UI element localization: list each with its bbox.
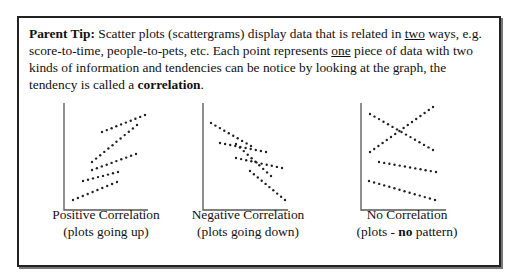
data-point <box>398 189 400 191</box>
data-point <box>415 118 417 120</box>
data-point <box>388 163 390 165</box>
data-point <box>418 141 420 143</box>
data-point <box>91 161 93 163</box>
data-point <box>391 126 393 128</box>
data-point <box>115 160 117 162</box>
data-point <box>245 159 247 161</box>
data-point <box>110 162 112 164</box>
data-point <box>373 181 375 183</box>
data-point <box>82 195 84 197</box>
data-point <box>272 189 274 191</box>
data-point <box>224 143 226 145</box>
data-point <box>261 180 263 182</box>
data-point <box>235 157 237 159</box>
data-point <box>266 164 268 166</box>
data-point <box>378 118 380 120</box>
data-point <box>223 130 225 132</box>
data-point <box>378 161 380 163</box>
data-point <box>101 165 103 167</box>
data-point <box>106 164 108 166</box>
data-point <box>245 142 247 144</box>
data-point <box>373 115 375 117</box>
data-point <box>386 139 388 141</box>
data-point <box>258 164 260 166</box>
data-point <box>404 165 406 167</box>
data-point <box>115 141 117 143</box>
data-point <box>419 115 421 117</box>
data-point <box>268 186 270 188</box>
data-point <box>115 125 117 127</box>
data-point <box>266 171 268 173</box>
data-point <box>91 191 93 193</box>
data-point <box>400 131 402 133</box>
data-point <box>276 166 278 168</box>
data-point <box>110 127 112 129</box>
data-point <box>102 175 104 177</box>
data-point <box>136 124 138 126</box>
data-point <box>117 171 119 173</box>
data-point <box>262 168 264 170</box>
data-point <box>427 146 429 148</box>
data-point <box>228 132 230 134</box>
data-point <box>82 180 84 182</box>
data-point <box>116 181 118 183</box>
data-point <box>423 144 425 146</box>
data-point <box>264 183 266 185</box>
data-point <box>280 196 282 198</box>
data-point <box>107 147 109 149</box>
data-point <box>409 166 411 168</box>
data-point <box>95 157 97 159</box>
data-point <box>382 121 384 123</box>
data-point <box>237 137 239 139</box>
data-point <box>394 133 396 135</box>
data-point <box>250 145 252 147</box>
data-point <box>411 121 413 123</box>
data-point <box>419 168 421 170</box>
data-point <box>369 151 371 153</box>
caption-no-correlation: No Correlation (plots - no pattern) <box>337 206 477 240</box>
data-point <box>368 180 370 182</box>
data-point <box>396 128 398 130</box>
data-point <box>276 192 278 194</box>
data-point <box>92 177 94 179</box>
axes <box>203 103 288 210</box>
data-point <box>424 169 426 171</box>
data-point <box>435 171 437 173</box>
data-point <box>260 150 262 152</box>
data-point <box>405 133 407 135</box>
caption-positive: Positive Correlation (plots going up) <box>36 206 176 240</box>
data-point <box>270 175 272 177</box>
data-point <box>96 167 98 169</box>
data-point <box>87 193 89 195</box>
data-point <box>265 151 267 153</box>
data-point <box>390 136 392 138</box>
data-point <box>250 160 252 162</box>
plot-no-correlation <box>361 103 446 210</box>
data-point <box>219 127 221 129</box>
caption-negative: Negative Correlation (plots going down) <box>178 206 318 240</box>
data-point <box>144 114 146 116</box>
data-point <box>128 131 130 133</box>
data-point <box>249 170 251 172</box>
data-point <box>106 185 108 187</box>
data-point <box>428 109 430 111</box>
data-point <box>132 127 134 129</box>
data-point <box>414 193 416 195</box>
data-point <box>97 176 99 178</box>
data-point <box>139 116 141 118</box>
data-point <box>247 154 249 156</box>
data-point <box>119 137 121 139</box>
data-point <box>111 144 113 146</box>
data-point <box>96 189 98 191</box>
plot-negative <box>203 103 288 210</box>
data-point <box>381 142 383 144</box>
data-point <box>72 199 74 201</box>
data-point <box>388 186 390 188</box>
data-point <box>229 144 231 146</box>
data-point <box>210 122 212 124</box>
data-point <box>429 197 431 199</box>
data-point <box>250 157 252 159</box>
data-point <box>399 164 401 166</box>
data-point <box>99 154 101 156</box>
data-point <box>424 196 426 198</box>
